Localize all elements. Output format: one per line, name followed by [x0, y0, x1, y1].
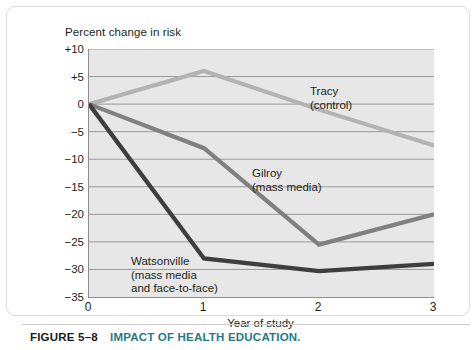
series-line-tracy [89, 71, 434, 145]
series-annotation-tracy: Tracy (control) [310, 85, 352, 112]
y-tick-label: 0 [44, 98, 84, 110]
y-axis-title: Percent change in risk [65, 26, 181, 38]
caption-divider [22, 324, 470, 325]
series-annotation-gilroy-name: Gilroy [252, 167, 322, 181]
x-tick-label: 2 [303, 300, 333, 314]
x-tick-label: 0 [73, 300, 103, 314]
y-tick-label: −20 [44, 208, 84, 220]
x-axis-tick-labels: 0123 [88, 300, 433, 318]
y-axis-tick-labels: +10+50−5−10−15−20−25−30−35 [40, 49, 84, 297]
series-annotation-watsonville-sublabel: (mass media [131, 269, 218, 283]
y-tick-label: −5 [44, 126, 84, 138]
series-annotation-watsonville-sublabel2: and face-to-face) [131, 282, 218, 296]
series-annotation-gilroy-sublabel: (mass media) [252, 181, 322, 195]
figure-caption: FIGURE 5–8 IMPACT OF HEALTH EDUCATION. [30, 331, 301, 343]
x-tick-label: 1 [188, 300, 218, 314]
figure-number: FIGURE 5–8 [30, 331, 98, 343]
series-annotation-gilroy: Gilroy (mass media) [252, 167, 322, 194]
figure-panel: Percent change in risk +10+50−5−10−15−20… [0, 0, 476, 350]
chart-card: Percent change in risk +10+50−5−10−15−20… [6, 6, 470, 316]
y-tick-label: −30 [44, 263, 84, 275]
series-annotation-tracy-name: Tracy [310, 85, 352, 99]
y-tick-label: −25 [44, 236, 84, 248]
series-annotation-watsonville: Watsonville (mass media and face-to-face… [131, 255, 218, 296]
y-tick-label: +10 [44, 43, 84, 55]
y-tick-label: +5 [44, 71, 84, 83]
series-annotation-tracy-sublabel: (control) [310, 99, 352, 113]
figure-title: IMPACT OF HEALTH EDUCATION. [110, 331, 301, 343]
x-axis-title: Year of study [88, 317, 433, 329]
x-tick-label: 3 [418, 300, 448, 314]
y-tick-label: −15 [44, 181, 84, 193]
y-tick-label: −10 [44, 153, 84, 165]
series-annotation-watsonville-name: Watsonville [131, 255, 218, 269]
